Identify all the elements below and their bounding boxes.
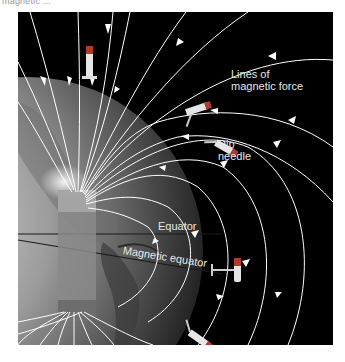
label-line-1: Lines of [231, 68, 303, 80]
dip-needle-label: Dip needle [218, 138, 251, 162]
partial-caption: magnetic ... [2, 0, 51, 6]
dip-needle-top [82, 46, 97, 79]
label-line-2: magnetic force [231, 80, 303, 92]
label-line-1: Dip [218, 138, 251, 150]
label-line-2: needle [218, 150, 251, 162]
diagram-artwork [18, 12, 333, 345]
equator-label: Equator [158, 220, 197, 232]
lines-of-force-label: Lines of magnetic force [231, 68, 303, 92]
bar-magnet [58, 190, 96, 318]
magnetic-field-diagram: Lines of magnetic force Dip needle Equat… [18, 12, 333, 345]
